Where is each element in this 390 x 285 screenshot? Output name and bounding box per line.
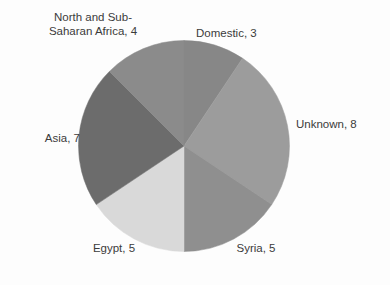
pie-label-egypt: Egypt, 5: [74, 241, 154, 255]
pie-chart-figure: North and Sub- Saharan Africa, 4 Domesti…: [0, 0, 390, 285]
pie-plot-area: [78, 40, 290, 252]
pie-svg: [78, 40, 290, 252]
pie-label-north-and-sub-saharan-africa: North and Sub- Saharan Africa, 4: [28, 10, 158, 38]
pie-label-asia: Asia, 7: [14, 131, 80, 145]
pie-label-syria: Syria, 5: [216, 241, 296, 255]
pie-slices: [79, 41, 290, 252]
pie-label-domestic: Domestic, 3: [196, 26, 296, 40]
pie-label-unknown: Unknown, 8: [296, 117, 388, 131]
